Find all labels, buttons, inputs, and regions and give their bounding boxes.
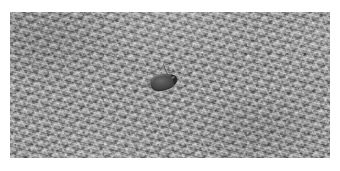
photograph <box>10 12 330 158</box>
photo-canvas <box>0 0 340 171</box>
subject-layer <box>10 12 330 158</box>
dark-crescent-object <box>10 12 330 158</box>
